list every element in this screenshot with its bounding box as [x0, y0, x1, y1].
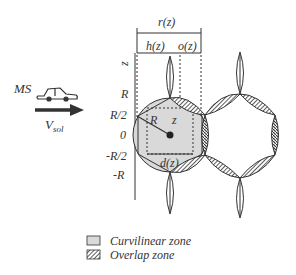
h-label: h(z) [146, 39, 165, 53]
o-label: o(z) [178, 39, 197, 53]
legend-label-curvilinear: Curvilinear zone [110, 234, 192, 248]
tick-R: R [120, 87, 129, 101]
tick-neg-R-half: -R/2 [106, 149, 127, 163]
r-label: r(z) [158, 15, 175, 29]
coverage-diagram: MS Vsol z R R/2 0 -R/2 -R r(z) h(z) o(z)… [0, 0, 296, 275]
vehicle-label: MS [13, 81, 32, 96]
legend-label-overlap: Overlap zone [110, 248, 175, 262]
velocity-arrow [35, 104, 84, 116]
axis-name: z [117, 61, 131, 67]
tick-R-half: R/2 [109, 108, 127, 122]
center-point [167, 132, 174, 139]
z-label: z [171, 113, 177, 127]
velocity-label: Vsol [45, 117, 64, 134]
legend-swatch-curvilinear [87, 236, 100, 245]
radius-label: R [149, 113, 158, 127]
car-icon [37, 88, 77, 101]
tick-zero: 0 [120, 128, 126, 142]
legend-swatch-overlap [87, 250, 100, 259]
tick-neg-R: -R [113, 168, 125, 182]
legend: Curvilinear zone Overlap zone [87, 234, 192, 262]
